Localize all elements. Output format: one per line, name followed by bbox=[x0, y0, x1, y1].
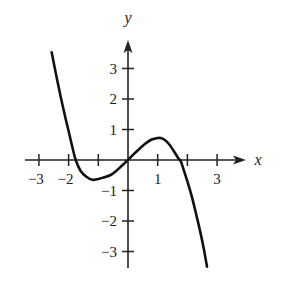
y-tick-label: −1 bbox=[101, 183, 117, 199]
function-graph: −3−213 x −3−2−1123 y bbox=[0, 0, 284, 284]
y-tick-label: 3 bbox=[110, 61, 118, 77]
y-tick-label: −2 bbox=[101, 213, 117, 229]
y-tick-label: 2 bbox=[110, 91, 118, 107]
y-axis: −3−2−1123 y bbox=[101, 9, 134, 268]
x-tick-label: 1 bbox=[154, 171, 162, 187]
y-tick-label: −3 bbox=[101, 244, 117, 260]
x-axis-label: x bbox=[253, 151, 261, 168]
x-tick-label: 3 bbox=[213, 171, 221, 187]
x-axis: −3−213 x bbox=[25, 151, 262, 187]
x-tick-label: −2 bbox=[58, 171, 74, 187]
y-axis-label: y bbox=[122, 9, 132, 27]
y-tick-label: 1 bbox=[110, 122, 118, 138]
x-axis-ticks: −3−213 bbox=[28, 154, 221, 187]
x-tick-label: −3 bbox=[28, 171, 44, 187]
